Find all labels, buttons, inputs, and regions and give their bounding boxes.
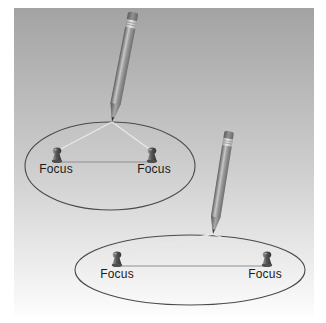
illustration-stage: Focus Focus Focus Focus <box>0 0 326 323</box>
ellipse-construction-figure: Focus Focus Focus Focus <box>0 0 326 323</box>
focus-label-left: Focus <box>39 162 73 176</box>
focus-label-right: Focus <box>137 162 171 176</box>
focus-label-right: Focus <box>248 267 282 281</box>
focus-label-left: Focus <box>100 267 134 281</box>
